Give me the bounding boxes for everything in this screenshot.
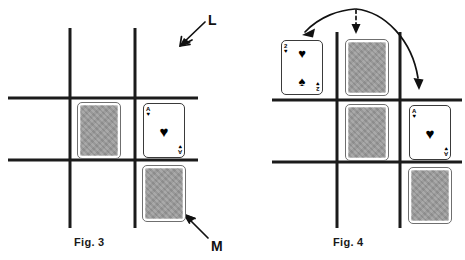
fig4-card-bottom-right-back[interactable]: [409, 168, 451, 223]
card-corner-index-top-left: A ♥: [412, 108, 416, 119]
figure-panel: A ♥ ♥ A ♥ 2 ♥ ♥ ♠ 2 ♥ A ♥ ♥ A ♥: [0, 0, 465, 260]
fig4-arrow-left: [302, 9, 355, 38]
fig3-arrow-L: [179, 22, 205, 47]
card-corner-index-bottom-right: 2 ♥: [316, 81, 320, 92]
figure-4-caption: Fig. 4: [333, 236, 364, 248]
annotation-label-L: L: [208, 12, 217, 28]
heart-icon: ♥: [144, 124, 184, 139]
heart-icon: ♥: [178, 144, 182, 150]
heart-icon: ♥: [412, 113, 416, 119]
fig4-arrow-down-head: [352, 24, 361, 34]
fig4-card-center-right-ace-of-hearts[interactable]: A ♥ ♥ A ♥: [409, 105, 451, 160]
fig3-arrow-M: [184, 214, 208, 238]
fig4-card-center-center-back[interactable]: [346, 105, 388, 160]
heart-icon: ♥: [316, 81, 320, 87]
card-corner-index-bottom-right: A ♥: [444, 146, 448, 157]
card-corner-index-top-left: A ♥: [146, 106, 150, 117]
fig4-card-top-center-back[interactable]: [346, 40, 388, 95]
heart-icon: ♥: [444, 146, 448, 152]
card-corner-index-bottom-right: A ♥: [178, 144, 182, 155]
figure-3-caption: Fig. 3: [74, 236, 105, 248]
heart-icon: ♥: [282, 47, 322, 60]
fig4-card-top-left-two-of-hearts-spades[interactable]: 2 ♥ ♥ ♠ 2 ♥: [281, 40, 323, 95]
fig3-card-center-left-back[interactable]: [78, 103, 120, 158]
vector-layer: [0, 0, 465, 260]
fig4-arrow-left-shaft: [305, 9, 355, 32]
fig4-arrow-right-head: [414, 78, 424, 90]
fig4-arrow-down-dashed: [352, 10, 361, 34]
fig3-card-center-right-ace-of-hearts[interactable]: A ♥ ♥ A ♥: [143, 103, 185, 158]
heart-icon: ♥: [410, 126, 450, 141]
annotation-label-M: M: [211, 238, 223, 254]
fig4-arrow-left-head: [302, 29, 315, 38]
heart-icon: ♥: [146, 111, 150, 117]
fig3-card-bottom-right-back[interactable]: [143, 166, 185, 221]
